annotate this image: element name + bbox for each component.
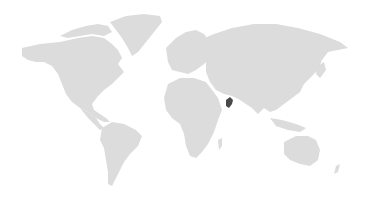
- region-south-america[interactable]: [100, 122, 142, 186]
- region-oman-highlighted[interactable]: [226, 97, 233, 108]
- region-greenland[interactable]: [110, 14, 162, 56]
- region-australia[interactable]: [284, 136, 320, 166]
- region-asia[interactable]: [200, 24, 348, 114]
- region-new-zealand: [334, 164, 340, 174]
- world-map: [0, 0, 380, 202]
- region-madagascar: [218, 138, 222, 150]
- region-north-america[interactable]: [22, 36, 124, 122]
- region-canadian-arctic: [60, 24, 112, 38]
- region-africa[interactable]: [164, 78, 222, 158]
- region-indonesia: [270, 118, 306, 132]
